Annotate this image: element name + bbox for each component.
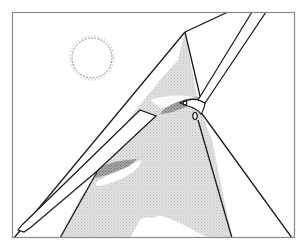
illustration-canvas xyxy=(0,0,308,251)
sun-icon xyxy=(70,36,114,80)
sail xyxy=(60,32,232,238)
sailboat-illustration xyxy=(0,0,308,251)
